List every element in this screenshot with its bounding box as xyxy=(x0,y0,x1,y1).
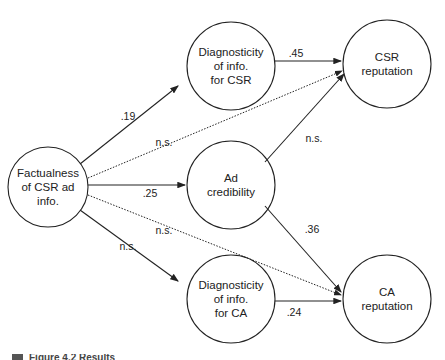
coef-fact-adcred: .25 xyxy=(143,187,158,199)
label-csr-reputation: CSR reputation xyxy=(361,50,412,78)
label-line: for CSR xyxy=(198,73,263,87)
label-line: Diagnosticity xyxy=(198,45,263,59)
label-line: info. xyxy=(17,194,79,208)
edge-adcred-carep xyxy=(265,206,341,292)
label-line: Diagnosticity xyxy=(198,278,263,292)
coef-fact-csrrep: n.s. xyxy=(156,136,173,148)
label-diagnosticity-ca: Diagnosticity of info. for CA xyxy=(198,278,263,320)
label-diagnosticity-csr: Diagnosticity of info. for CSR xyxy=(198,45,263,87)
coef-fact-diagca: n.s. xyxy=(120,240,137,252)
figure-caption: Figure 4.2 Results xyxy=(12,350,115,360)
edge-fact-diagcsr xyxy=(80,86,178,164)
coef-adcred-csrrep: n.s. xyxy=(306,132,323,144)
label-ca-reputation: CA reputation xyxy=(361,285,412,313)
label-line: Ad xyxy=(207,171,255,185)
label-line: CSR xyxy=(361,50,412,64)
label-ad-credibility: Ad credibility xyxy=(207,171,255,199)
coef-fact-carep: n.s. xyxy=(156,224,173,236)
label-line: of CSR ad xyxy=(17,180,79,194)
coef-fact-diagcsr: .19 xyxy=(121,110,136,122)
coef-diagca-carep: .24 xyxy=(287,306,302,318)
label-line: Factualness xyxy=(17,166,79,180)
caption-marker-icon xyxy=(12,354,23,360)
label-line: CA xyxy=(361,285,412,299)
caption-text: Figure 4.2 Results xyxy=(29,354,115,360)
coef-diagcsr-csrrep: .45 xyxy=(289,47,304,59)
label-line: credibility xyxy=(207,185,255,199)
label-line: for CA xyxy=(198,306,263,320)
coef-adcred-carep: .36 xyxy=(305,223,320,235)
label-factualness: Factualness of CSR ad info. xyxy=(17,166,79,208)
label-line: of info. xyxy=(198,59,263,73)
label-line: reputation xyxy=(361,64,412,78)
label-line: of info. xyxy=(198,292,263,306)
label-line: reputation xyxy=(361,299,412,313)
